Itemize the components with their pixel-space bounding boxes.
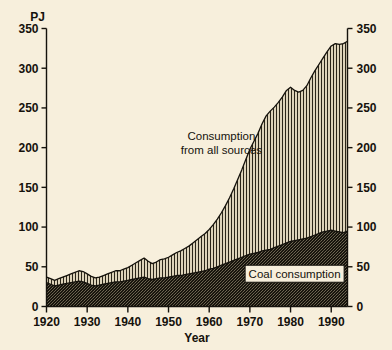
y-tick-label-right-150: 150 — [357, 181, 377, 195]
y-tick-label-right-50: 50 — [357, 260, 371, 274]
coal-series-label-text: Coal consumption — [249, 268, 341, 280]
x-tick-label-1930: 1930 — [74, 315, 101, 329]
y-tick-label-left-50: 50 — [25, 260, 39, 274]
y-tick-label-left-200: 200 — [18, 141, 38, 155]
y-tick-label-right-0: 0 — [357, 300, 364, 314]
y-tick-label-left-300: 300 — [18, 62, 38, 76]
y-tick-label-right-250: 250 — [357, 101, 377, 115]
y-tick-label-right-100: 100 — [357, 220, 377, 234]
x-tick-label-1950: 1950 — [155, 315, 182, 329]
x-axis-title: Year — [184, 331, 210, 345]
y-tick-label-left-150: 150 — [18, 181, 38, 195]
y-tick-label-left-250: 250 — [18, 101, 38, 115]
y-tick-label-right-200: 200 — [357, 141, 377, 155]
y-tick-label-left-0: 0 — [32, 300, 39, 314]
y-tick-label-right-300: 300 — [357, 62, 377, 76]
y-tick-label-left-350: 350 — [18, 22, 38, 36]
x-tick-label-1960: 1960 — [196, 315, 223, 329]
y-tick-label-left-100: 100 — [18, 220, 38, 234]
chart-figure: 0501001502002503003500501001502002503003… — [0, 0, 392, 350]
x-tick-label-1990: 1990 — [318, 315, 345, 329]
x-tick-label-1970: 1970 — [237, 315, 264, 329]
x-tick-label-1980: 1980 — [277, 315, 304, 329]
total-series-label-line2: from all sources — [181, 144, 262, 156]
y-axis-unit-label: PJ — [30, 10, 45, 24]
x-tick-label-1940: 1940 — [114, 315, 141, 329]
total-series-label-line1: Consumption — [188, 130, 256, 142]
energy-consumption-area-chart: 0501001502002503003500501001502002503003… — [0, 0, 392, 350]
x-tick-label-1920: 1920 — [33, 315, 60, 329]
y-tick-label-right-350: 350 — [357, 22, 377, 36]
